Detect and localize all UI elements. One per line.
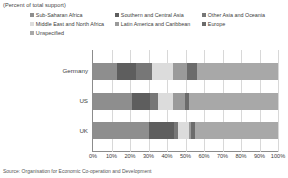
bar-segment[interactable] <box>93 122 149 139</box>
bar-segment[interactable] <box>149 122 175 139</box>
bar-segment[interactable] <box>136 63 153 80</box>
legend-label: Middle East and North Africa <box>36 21 104 27</box>
legend-label: Southern and Central Asia <box>121 12 184 18</box>
bar-segment[interactable] <box>197 63 278 80</box>
legend-item[interactable]: Europe <box>202 21 225 27</box>
legend-swatch-icon <box>30 22 34 26</box>
source-note: Source: Organisation for Economic Co-ope… <box>3 168 151 174</box>
legend-item[interactable]: Latin America and Caribbean <box>115 21 190 27</box>
x-axis-tick-label: 100% <box>267 153 288 159</box>
legend-item[interactable]: Southern and Central Asia <box>115 12 184 18</box>
bar-segment[interactable] <box>132 93 151 110</box>
bar-segment[interactable] <box>158 93 173 110</box>
category-label: UK <box>28 127 88 134</box>
legend-swatch-icon <box>30 31 34 35</box>
legend-label: Unspecified <box>36 30 64 36</box>
bar-segment[interactable] <box>117 63 136 80</box>
legend-label: Sub-Saharan Africa <box>36 12 83 18</box>
bar-segment[interactable] <box>173 93 186 110</box>
legend-item[interactable]: Middle East and North Africa <box>30 21 104 27</box>
legend-item[interactable]: Other Asia and Oceania <box>202 12 265 18</box>
legend-swatch-icon <box>115 22 119 26</box>
bar-row <box>93 63 278 80</box>
legend-item[interactable]: Unspecified <box>30 30 64 36</box>
legend-swatch-icon <box>202 13 206 17</box>
bar-segment[interactable] <box>152 63 172 80</box>
chart-legend: Sub-Saharan AfricaSouthern and Central A… <box>30 12 286 40</box>
bar-row <box>93 122 278 139</box>
legend-swatch-icon <box>202 22 206 26</box>
bar-row <box>93 93 278 110</box>
bar-segment[interactable] <box>150 93 157 110</box>
bar-segment[interactable] <box>195 122 278 139</box>
gridline <box>278 50 279 152</box>
bar-segment[interactable] <box>93 63 117 80</box>
legend-swatch-icon <box>115 13 119 17</box>
chart-subtitle: (Percent of total support) <box>3 2 66 8</box>
legend-swatch-icon <box>30 13 34 17</box>
bar-segment[interactable] <box>173 63 188 80</box>
legend-label: Latin America and Caribbean <box>121 21 191 27</box>
category-label: US <box>28 97 88 104</box>
bar-segment[interactable] <box>187 63 196 80</box>
bar-segment[interactable] <box>178 122 189 139</box>
bar-segment[interactable] <box>93 93 132 110</box>
legend-item[interactable]: Sub-Saharan Africa <box>30 12 83 18</box>
category-label: Germany <box>28 67 88 74</box>
plot-area <box>93 50 278 152</box>
legend-label: Other Asia and Oceania <box>208 12 265 18</box>
bar-segment[interactable] <box>189 93 278 110</box>
legend-label: Europe <box>208 21 225 27</box>
